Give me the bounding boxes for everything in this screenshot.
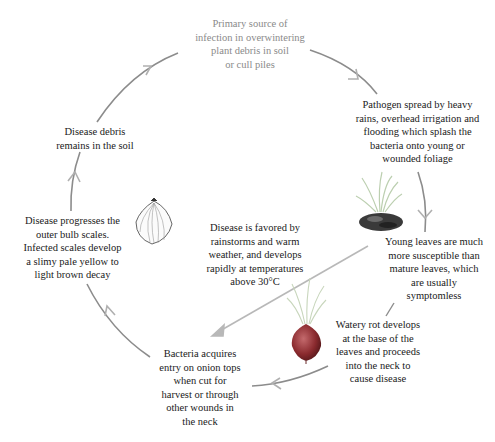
line: a slimy pale yellow to	[10, 255, 135, 269]
line: the neck	[150, 415, 250, 429]
line: outer bulb scales.	[10, 228, 135, 242]
line: plant debris in soil	[160, 44, 340, 58]
line: Pathogen spread by heavy	[340, 98, 495, 112]
node-favored-by: Disease is favored by rainstorms and war…	[190, 221, 320, 289]
line: entry on onion tops	[150, 361, 250, 375]
line: Disease progresses the	[10, 214, 135, 228]
line: rainstorms and warm	[190, 235, 320, 249]
line: bacteria onto young or	[340, 139, 495, 153]
line: Bacteria acquires	[150, 347, 250, 361]
arrow-watery-to-bacteria	[252, 366, 328, 389]
line: mature leaves, which	[373, 262, 495, 276]
arrow-young-to-watery	[386, 303, 394, 316]
line: when cut for	[150, 374, 250, 388]
node-bacteria-entry: Bacteria acquires entry on onion tops wh…	[150, 347, 250, 429]
line: Infected scales develop	[10, 241, 135, 255]
line: above 30°C	[190, 275, 320, 289]
line: harvest or through	[150, 388, 250, 402]
node-debris-remains: Disease debris remains in the soil	[45, 125, 145, 152]
line: symptomless	[373, 289, 495, 303]
node-young-leaves: Young leaves are much more susceptible t…	[373, 235, 495, 303]
arrow-progresses-to-debris	[68, 152, 80, 211]
line: are usually	[373, 276, 495, 290]
line: Disease is favored by	[190, 221, 320, 235]
line: into the neck to	[328, 359, 428, 373]
onion-bulb-sketch-icon	[136, 198, 172, 244]
line: more susceptible than	[373, 249, 495, 263]
arrow-spread-to-young-leaves	[418, 172, 432, 232]
line: at the base of the	[328, 332, 428, 346]
line: light brown decay	[10, 268, 135, 282]
line: rains, overhead irrigation and	[340, 112, 495, 126]
line: Young leaves are much	[373, 235, 495, 249]
node-pathogen-spread: Pathogen spread by heavy rains, overhead…	[340, 98, 495, 166]
line: wounded foliage	[340, 152, 495, 166]
line: Primary source of	[160, 17, 340, 31]
arrow-bacteria-to-progresses	[87, 284, 150, 357]
line: Disease debris	[45, 125, 145, 139]
line: cause disease	[328, 372, 428, 386]
line: rapidly at temperatures	[190, 262, 320, 276]
node-watery-rot: Watery rot develops at the base of the l…	[328, 318, 428, 386]
line: remains in the soil	[45, 139, 145, 153]
red-onion-bulb-icon	[287, 278, 326, 364]
line: leaves and proceeds	[328, 345, 428, 359]
seedling-in-soil-icon	[356, 172, 403, 231]
line: Watery rot develops	[328, 318, 428, 332]
node-primary-source: Primary source of infection in overwinte…	[160, 17, 340, 71]
line: flooding which splash the	[340, 125, 495, 139]
line: weather, and develops	[190, 248, 320, 262]
line: infection in overwintering	[160, 31, 340, 45]
line: other wounds in	[150, 401, 250, 415]
node-disease-progresses: Disease progresses the outer bulb scales…	[10, 214, 135, 282]
line: or cull piles	[160, 58, 340, 72]
